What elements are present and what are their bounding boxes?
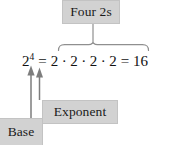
callout-label-four-2s: Four 2s bbox=[62, 0, 120, 24]
equation-base-power: 24 bbox=[22, 54, 34, 69]
multiplication-dot-icon: · bbox=[78, 54, 90, 69]
callout-label-base: Base bbox=[0, 118, 43, 145]
multiplication-dot-icon: · bbox=[97, 54, 109, 69]
equation-equals-second: = bbox=[117, 54, 133, 69]
equation-factor-3: 2 bbox=[90, 54, 98, 69]
multiplication-dot-icon: · bbox=[58, 54, 70, 69]
equation-factor-1: 2 bbox=[51, 54, 59, 69]
callout-label-four-2s-text: Four 2s bbox=[70, 5, 112, 19]
equation-factor-2: 2 bbox=[70, 54, 78, 69]
equation-result: 16 bbox=[133, 54, 148, 69]
equation-equals-first: = bbox=[34, 54, 50, 69]
equation-factor-4: 2 bbox=[109, 54, 117, 69]
callout-label-exponent: Exponent bbox=[42, 100, 118, 124]
exponent-diagram: Four 2s 24=2·2·2·2=16 Exponent Base bbox=[0, 0, 170, 145]
callout-label-base-text: Base bbox=[8, 125, 35, 139]
equation-line: 24=2·2·2·2=16 bbox=[0, 50, 170, 72]
callout-label-exponent-text: Exponent bbox=[54, 105, 107, 119]
